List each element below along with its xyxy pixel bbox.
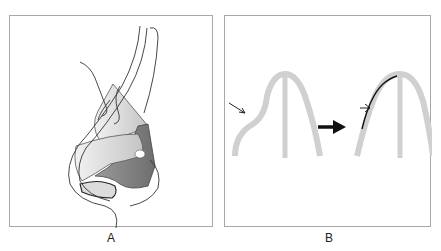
nose-lateral-illustration [10, 16, 214, 228]
panel-a-label: A [101, 231, 121, 245]
deformity-arrow-icon [229, 103, 245, 113]
panel-b-arch-correction [224, 15, 431, 227]
panel-a-nose-lateral [9, 15, 213, 227]
arch-correction-illustration [225, 16, 432, 228]
panel-b-label: B [319, 231, 339, 245]
corrected-arch [357, 74, 432, 156]
deformed-arch [235, 74, 320, 156]
